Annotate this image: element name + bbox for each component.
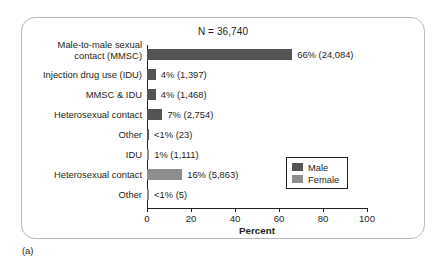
bar-data-label: 7% (2,754) [167,109,213,120]
bar-data-label: <1% (23) [154,129,192,140]
bar-data-label: 66% (24,084) [297,49,353,60]
x-axis-tick-label: 0 [132,213,162,224]
bar-male [147,69,156,80]
x-axis-tick [191,208,192,212]
chart-row: Other<1% (23) [22,125,426,145]
x-axis-tick [147,208,148,212]
category-label: Heterosexual contact [24,110,142,121]
category-label: Male-to-male sexual contact (MMSC) [24,40,142,61]
bar-data-label: <1% (5) [154,189,187,200]
bar-female [147,169,182,180]
bar-data-label: 4% (1,397) [161,69,207,80]
chart-row: Injection drug use (IDU)4% (1,397) [22,65,426,85]
bar-male [147,49,292,60]
bar-data-label: 4% (1,468) [161,89,207,100]
x-axis-tick-label: 60 [264,213,294,224]
chart-row: Male-to-male sexual contact (MMSC)66% (2… [22,45,426,65]
legend-swatch-female-icon [292,175,303,183]
legend-item-female: Female [292,173,339,185]
x-axis-tick [235,208,236,212]
bar-male [147,129,149,140]
category-label: IDU [24,150,142,161]
legend-label-male: Male [308,162,328,173]
x-axis-label: Percent [147,225,367,236]
category-label: MMSC & IDU [24,90,142,101]
x-axis-tick-label: 80 [308,213,338,224]
chart-row: MMSC & IDU4% (1,468) [22,85,426,105]
x-axis-tick-label: 20 [176,213,206,224]
x-axis-tick [367,208,368,212]
category-label: Other [24,130,142,141]
category-label: Heterosexual contact [24,170,142,181]
bar-data-label: 1% (1,111) [154,149,198,160]
chart-row: Other<1% (5) [22,185,426,205]
x-axis-tick-label: 40 [220,213,250,224]
figure-panel: N = 36,740 Percent Male-to-male sexual c… [21,17,425,239]
category-label: Injection drug use (IDU) [24,70,142,81]
legend-label-female: Female [308,174,339,185]
bar-chart-plot-area: Percent Male-to-male sexual contact (MMS… [22,18,426,240]
chart-row: IDU1% (1,111) [22,145,426,165]
legend-item-male: Male [292,161,339,173]
bar-male [147,109,162,120]
bar-male [147,89,156,100]
x-axis-tick-label: 100 [352,213,382,224]
chart-legend: Male Female [286,157,348,189]
figure-caption: (a) [22,245,33,256]
bar-data-label: 16% (5,863) [187,169,238,180]
legend-swatch-male-icon [292,163,303,171]
chart-row: Heterosexual contact16% (5,863) [22,165,426,185]
chart-row: Heterosexual contact7% (2,754) [22,105,426,125]
x-axis-tick [279,208,280,212]
x-axis-line [147,208,367,209]
x-axis-tick [323,208,324,212]
category-label: Other [24,190,142,201]
bar-female [147,149,149,160]
bar-female [147,189,149,200]
